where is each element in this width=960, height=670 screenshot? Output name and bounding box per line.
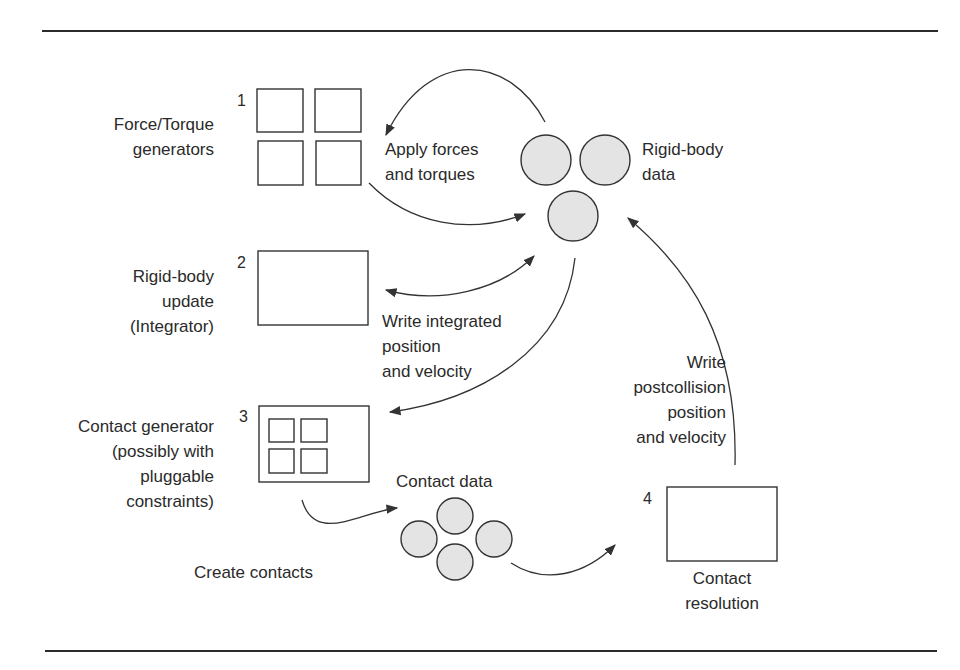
arrow-create-contacts <box>302 500 397 523</box>
rigid-body-data-store <box>521 135 630 241</box>
apply-forces-label: Apply forces and torques <box>385 137 479 187</box>
stage-1-number: 1 <box>237 92 246 110</box>
stage-4-label: Contact resolution <box>670 566 774 616</box>
rigid-body-data-label: Rigid-body data <box>642 137 723 187</box>
create-contacts-label: Create contacts <box>194 560 313 585</box>
stage-2-box <box>258 251 368 325</box>
stage-3-label: Contact generator (possibly with pluggab… <box>78 414 214 514</box>
arrow-apply-forces <box>369 183 525 225</box>
stage-2-number: 2 <box>237 254 246 272</box>
stage-4-box <box>667 487 777 561</box>
arrow-contacts-to-resolution <box>511 545 615 575</box>
write-postcollision-label: Write postcollision position and velocit… <box>633 350 726 450</box>
arrow-integrator-bidirectional <box>386 256 534 296</box>
contact-data-store <box>401 498 512 580</box>
stage-2-label: Rigid-body update (Integrator) <box>130 264 214 339</box>
write-integrated-label: Write integrated position and velocity <box>382 309 502 384</box>
stage-3-number: 3 <box>239 408 248 426</box>
stage-4-number: 4 <box>643 490 652 508</box>
arrow-rigid-data-to-generators <box>386 70 545 135</box>
stage-1-label: Force/Torque generators <box>114 112 214 162</box>
stage-1-box <box>257 89 361 185</box>
contact-data-label: Contact data <box>396 469 492 494</box>
stage-3-box <box>259 406 369 482</box>
